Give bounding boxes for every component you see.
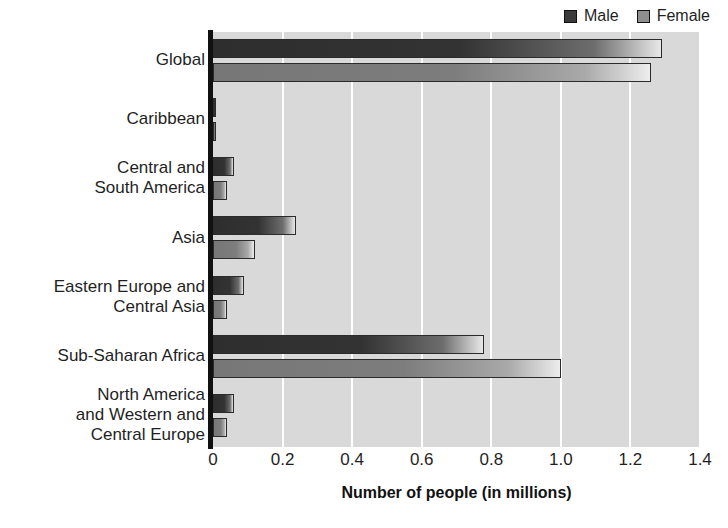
bar-male xyxy=(213,335,484,354)
bar-female xyxy=(213,300,227,319)
bar-group xyxy=(213,32,700,91)
bar-male xyxy=(213,394,234,413)
y-axis-line xyxy=(208,30,213,449)
category-label: Sub-Saharan Africa xyxy=(0,346,205,366)
bar-male xyxy=(213,39,662,58)
legend-item-female: Female xyxy=(637,8,710,24)
bar-group xyxy=(213,388,700,447)
legend-item-male: Male xyxy=(564,8,619,24)
x-tick-label: 0.8 xyxy=(479,450,503,470)
bar-group xyxy=(213,151,700,210)
male-swatch-icon xyxy=(564,10,577,23)
category-label: Central and South America xyxy=(0,158,205,198)
bar-female xyxy=(213,181,227,200)
category-label: North America and Western and Central Eu… xyxy=(0,385,205,445)
bar-male xyxy=(213,157,234,176)
category-label: Asia xyxy=(0,228,205,248)
plot-area xyxy=(213,32,700,447)
female-swatch-icon xyxy=(637,10,650,23)
category-axis-labels: GlobalCaribbeanCentral and South America… xyxy=(0,32,205,447)
bar-chart: Male Female GlobalCaribbeanCentral and S… xyxy=(0,0,728,528)
x-tick-label: 0.2 xyxy=(271,450,295,470)
legend-label-female: Female xyxy=(657,8,710,24)
category-label: Global xyxy=(0,50,205,70)
bar-group xyxy=(213,269,700,328)
bar-female xyxy=(213,122,216,141)
category-label: Caribbean xyxy=(0,109,205,129)
x-tick-label: 0.4 xyxy=(340,450,364,470)
x-tick-label: 1.4 xyxy=(688,450,712,470)
x-axis-title: Number of people (in millions) xyxy=(213,484,700,502)
x-tick-label: 0 xyxy=(208,450,217,470)
bar-group xyxy=(213,328,700,387)
bar-female xyxy=(213,359,561,378)
chart-legend: Male Female xyxy=(564,6,710,26)
bar-female xyxy=(213,418,227,437)
bar-group xyxy=(213,210,700,269)
bar-female xyxy=(213,63,651,82)
legend-label-male: Male xyxy=(584,8,619,24)
category-label: Eastern Europe and Central Asia xyxy=(0,277,205,317)
bar-female xyxy=(213,240,255,259)
x-tick-label: 1.0 xyxy=(549,450,573,470)
x-tick-label: 0.6 xyxy=(410,450,434,470)
bar-group xyxy=(213,91,700,150)
bar-male xyxy=(213,276,244,295)
x-axis-tick-labels: 00.20.40.60.81.01.21.4 xyxy=(0,450,728,474)
bar-male xyxy=(213,98,216,117)
bar-rows xyxy=(213,32,700,447)
bar-male xyxy=(213,216,296,235)
x-tick-label: 1.2 xyxy=(619,450,643,470)
